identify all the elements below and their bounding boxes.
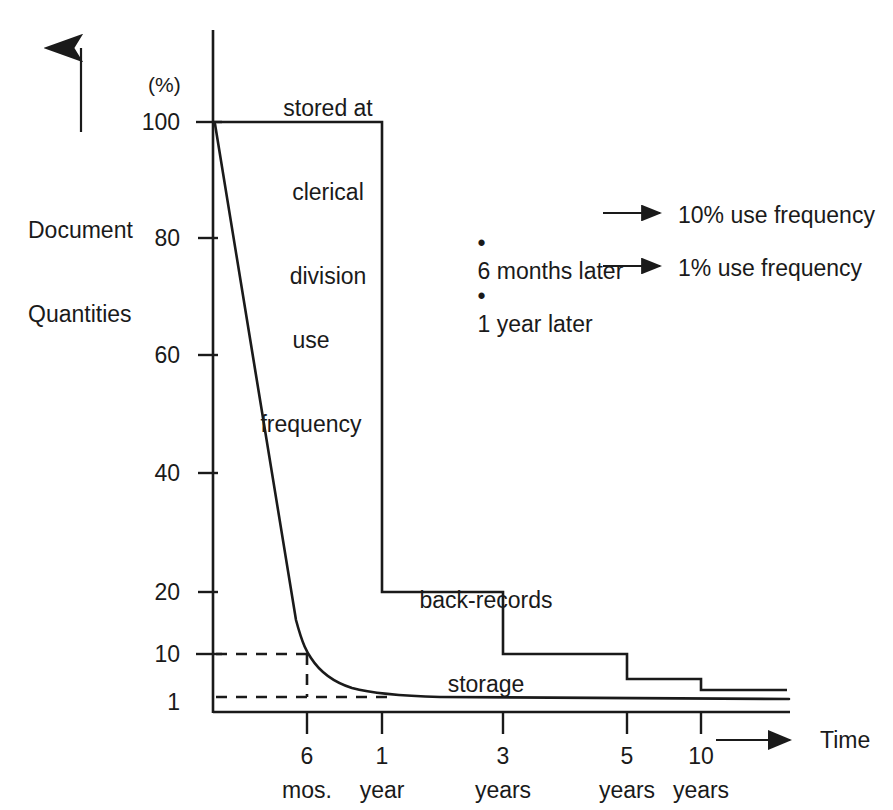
y-tick-label-40: 40 — [118, 459, 180, 487]
y-axis-ticks — [196, 122, 222, 654]
x-tick-sublabel-3years: years — [458, 776, 548, 804]
annotation-back-records-storage: back-records storage — [386, 530, 586, 754]
y-tick-label-60: 60 — [118, 341, 180, 369]
annotation-stored-line-1: stored at — [233, 94, 423, 122]
annotation-back-records-line-1: back-records — [386, 586, 586, 614]
x-tick-sublabel-1year: year — [337, 776, 427, 804]
annotation-use-frequency-line-2: frequency — [236, 410, 386, 438]
x-tick-sublabel-10years: years — [656, 776, 746, 804]
y-tick-label-20: 20 — [118, 578, 180, 606]
y-tick-label-1: 1 — [118, 688, 180, 716]
legend-bullet-0: • — [478, 230, 486, 256]
annotation-stored-line-2: clerical — [233, 178, 423, 206]
x-axis-title: Time — [820, 726, 870, 754]
legend-label-1: 1 year later — [478, 311, 593, 337]
y-axis-unit-label: (%) — [148, 72, 181, 98]
annotation-use-frequency: use frequency — [236, 270, 386, 494]
y-axis-title-line-2: Quantities — [28, 300, 133, 328]
y-tick-label-100: 100 — [118, 108, 180, 136]
annotation-back-records-line-2: storage — [386, 670, 586, 698]
legend-bullet-1: • — [478, 283, 486, 309]
legend-item-1-left: • 1 year later — [452, 254, 593, 366]
annotation-use-frequency-line-1: use — [236, 326, 386, 354]
legend-item-1-right: 1% use frequency — [678, 254, 862, 282]
y-tick-label-10: 10 — [118, 640, 180, 668]
legend-item-0-right: 10% use frequency — [678, 201, 875, 229]
x-tick-label-10years: 10 — [656, 742, 746, 770]
y-tick-label-80: 80 — [118, 224, 180, 252]
chart-figure: (%) Document Quantities 100 80 60 40 20 … — [0, 0, 893, 810]
